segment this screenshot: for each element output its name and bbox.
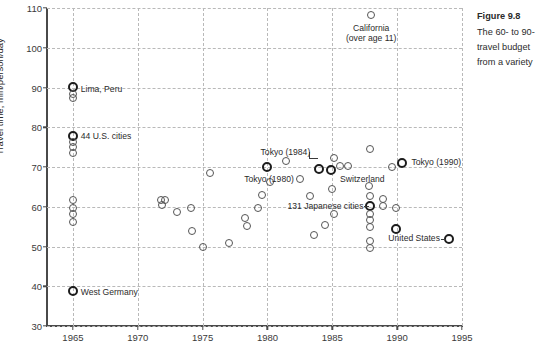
data-point (69, 210, 77, 218)
data-point (388, 163, 396, 171)
annotation-line: Tokyo (1990) (411, 157, 461, 167)
x-tick-mark (202, 326, 203, 330)
annotation-line: 44 U.S. cities (81, 131, 132, 141)
gridline-horizontal (47, 48, 462, 49)
leader-tokyo-1984-elbow (309, 158, 318, 159)
data-point (258, 191, 266, 199)
data-point (306, 192, 314, 200)
data-point (243, 222, 251, 230)
data-point (366, 145, 374, 153)
y-tick-label: 30 (31, 321, 42, 332)
x-tick-label: 1970 (127, 332, 148, 343)
leader-united-states (441, 239, 446, 240)
annotation-line: Lima, Peru (81, 84, 123, 94)
data-point (397, 158, 407, 168)
y-tick-label: 60 (31, 201, 42, 212)
x-tick-label: 1995 (451, 332, 472, 343)
annotation-lima-peru: Lima, Peru (81, 84, 123, 94)
x-tick-label: 1985 (322, 332, 343, 343)
data-point (69, 149, 77, 157)
annotation-west-germany: West Germany (81, 287, 138, 297)
y-tick-label: 90 (31, 82, 42, 93)
caption-title: Figure 9.8 (477, 9, 540, 24)
gridline-horizontal (47, 127, 462, 128)
data-point (225, 239, 233, 247)
annotation-line: West Germany (81, 287, 138, 297)
annotation-line: Tokyo (1984) (261, 147, 311, 157)
data-point (173, 208, 181, 216)
annotation-tokyo-1990: Tokyo (1990) (411, 157, 461, 167)
data-point (379, 202, 387, 210)
caption-body: The 60- to 90- travel budget from a vari… (477, 25, 540, 70)
gridline-vertical (138, 8, 139, 326)
data-point (321, 221, 329, 229)
y-tick-label: 50 (31, 241, 42, 252)
x-tick-label: 1980 (257, 332, 278, 343)
x-tick-label: 1965 (62, 332, 83, 343)
data-point (262, 162, 272, 172)
x-tick-mark (267, 326, 268, 330)
data-point (158, 201, 166, 209)
x-tick-label: 1990 (387, 332, 408, 343)
leader-131-japanese-cities (364, 206, 369, 207)
gridline-horizontal (47, 247, 462, 248)
x-tick-mark (332, 326, 333, 330)
annotation-line: 131 Japanese cities (287, 201, 363, 211)
data-point (188, 227, 196, 235)
annotation-line: California (346, 23, 396, 33)
data-point (296, 175, 304, 183)
y-tick-label: 40 (31, 281, 42, 292)
gridline-vertical (73, 8, 74, 326)
data-point (68, 286, 78, 296)
figure-caption: Figure 9.8 The 60- to 90- travel budget … (477, 9, 540, 70)
annotation-tokyo-1984: Tokyo (1984) (261, 147, 311, 157)
data-point (206, 169, 214, 177)
x-tick-mark (396, 326, 397, 330)
annotation-line: Tokyo (1980) (244, 174, 294, 184)
data-point (326, 165, 336, 175)
data-point (187, 204, 195, 212)
x-tick-mark (461, 326, 462, 330)
annotation-tokyo-1980: Tokyo (1980) (244, 174, 294, 184)
data-point (254, 204, 262, 212)
data-point (199, 243, 207, 251)
data-point (366, 244, 374, 252)
y-tick-label: 110 (27, 3, 42, 14)
data-point (344, 162, 352, 170)
annotation-switzerland: Switzerland (340, 174, 384, 184)
y-tick-label: 100 (26, 42, 42, 53)
annotation-line: (over age 11) (346, 33, 396, 43)
gridline-vertical (203, 8, 204, 326)
annotation-line: United States (388, 233, 440, 243)
data-point (328, 185, 336, 193)
data-point (314, 164, 324, 174)
y-tick-label: 70 (31, 162, 42, 173)
annotation-united-states: United States (388, 233, 440, 243)
data-point (366, 223, 374, 231)
data-point (69, 218, 77, 226)
gridline-vertical (462, 8, 463, 326)
data-point (69, 94, 77, 102)
scatter-plot: Lima, Peru44 U.S. citiesWest GermanyCali… (47, 8, 462, 326)
data-point (366, 192, 374, 200)
annotation-line: Switzerland (340, 174, 384, 184)
data-point (367, 11, 375, 19)
figure-container: Travel time, min/person/day 304050607080… (0, 0, 540, 358)
x-tick-mark (137, 326, 138, 330)
x-tick-label: 1975 (192, 332, 213, 343)
y-tick-label: 80 (31, 122, 42, 133)
x-tick-mark (72, 326, 73, 330)
data-point (310, 231, 318, 239)
annotation-44-us-cities: 44 U.S. cities (81, 131, 132, 141)
x-axis-ticks: 1965197019751980198519901995 (47, 326, 462, 354)
data-point (330, 154, 338, 162)
annotation-131-japanese-cities: 131 Japanese cities (287, 201, 363, 211)
y-axis-ticks: 30405060708090100110 (0, 8, 47, 326)
data-point (282, 157, 290, 165)
data-point (392, 204, 400, 212)
gridline-horizontal (47, 8, 462, 9)
annotation-california: California(over age 11) (346, 23, 396, 44)
